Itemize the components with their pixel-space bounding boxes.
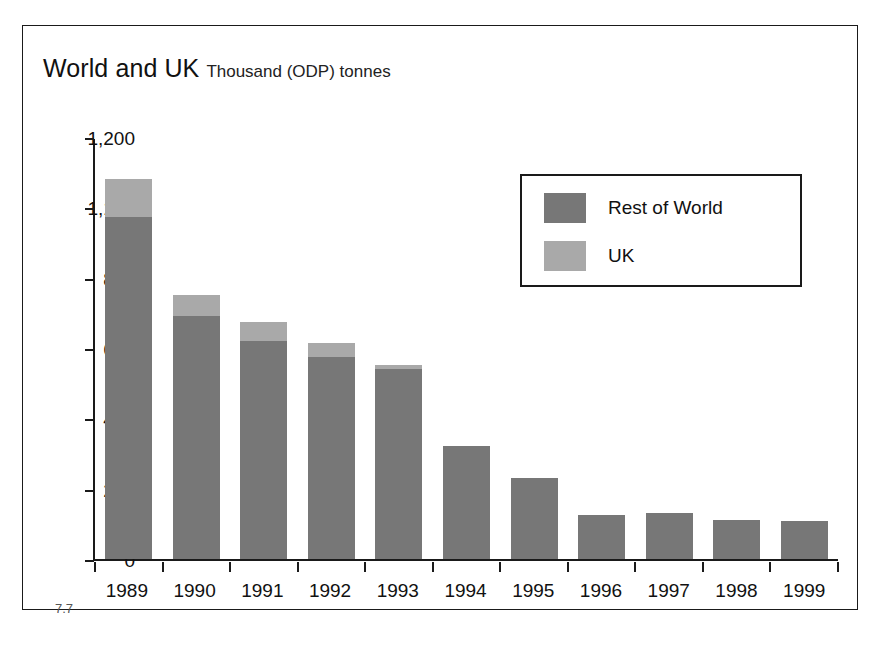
x-axis-ticks [93, 562, 838, 572]
x-axis-tick [162, 562, 164, 572]
legend-label-uk: UK [608, 245, 634, 267]
bar-1996 [578, 515, 625, 559]
bar-segment-rest-of-world [375, 369, 422, 559]
bar-1994 [443, 446, 490, 559]
x-axis-labels: 1989199019911992199319941995199619971998… [93, 580, 838, 602]
bar-group [95, 116, 163, 559]
x-axis-label-1996: 1996 [567, 580, 635, 602]
bar-group [298, 116, 366, 559]
x-axis-label-1990: 1990 [161, 580, 229, 602]
title-main: World and UK [43, 54, 199, 82]
x-axis-label-1993: 1993 [364, 580, 432, 602]
bar-segment-uk [105, 179, 152, 217]
x-axis-label-1997: 1997 [635, 580, 703, 602]
y-axis-tick [85, 279, 94, 281]
bar-group [230, 116, 298, 559]
y-axis-tick [85, 490, 94, 492]
x-axis-label-1992: 1992 [296, 580, 364, 602]
x-axis-label-1998: 1998 [703, 580, 771, 602]
x-axis-tick [769, 562, 771, 572]
legend-item-uk: UK [544, 241, 800, 271]
bar-segment-rest-of-world [713, 520, 760, 559]
bar-1992 [308, 343, 355, 559]
bar-segment-rest-of-world [105, 217, 152, 559]
bar-1989 [105, 179, 152, 559]
title-subtitle: Thousand (ODP) tonnes [206, 62, 390, 81]
y-axis-tick [85, 208, 94, 210]
bar-group [365, 116, 433, 559]
x-axis-tick [567, 562, 569, 572]
x-axis-label-1989: 1989 [93, 580, 161, 602]
bar-segment-rest-of-world [308, 357, 355, 559]
bar-segment-rest-of-world [443, 446, 490, 559]
x-axis-tick [364, 562, 366, 572]
bar-segment-rest-of-world [781, 521, 828, 559]
bar-1997 [646, 513, 693, 559]
bar-1990 [173, 295, 220, 559]
legend-item-rest-of-world: Rest of World [544, 193, 800, 223]
figure-frame: World and UKThousand (ODP) tonnes 1,2001… [22, 25, 858, 610]
y-axis-tick [85, 138, 94, 140]
x-axis-tick [432, 562, 434, 572]
bar-segment-uk [173, 295, 220, 316]
bar-group [433, 116, 501, 559]
x-axis-label-1991: 1991 [228, 580, 296, 602]
bar-segment-uk [240, 322, 287, 341]
bar-segment-rest-of-world [240, 341, 287, 559]
x-axis-tick [94, 562, 96, 572]
y-axis-tick [85, 349, 94, 351]
bar-segment-uk [308, 343, 355, 357]
x-axis-label-1994: 1994 [432, 580, 500, 602]
x-axis-label-1999: 1999 [770, 580, 838, 602]
bar-segment-rest-of-world [646, 513, 693, 559]
y-axis-tick [85, 419, 94, 421]
bar-group [163, 116, 231, 559]
legend-label-rest-of-world: Rest of World [608, 197, 723, 219]
x-axis-label-1995: 1995 [499, 580, 567, 602]
bar-1993 [375, 365, 422, 559]
bar-1999 [781, 521, 828, 559]
x-axis-tick [634, 562, 636, 572]
x-axis-tick [229, 562, 231, 572]
legend-swatch-rest-of-world [544, 193, 586, 223]
bar-1991 [240, 322, 287, 559]
x-axis-tick [837, 562, 839, 572]
x-axis-tick [702, 562, 704, 572]
legend-swatch-uk [544, 241, 586, 271]
bar-segment-rest-of-world [578, 515, 625, 559]
x-axis-tick [499, 562, 501, 572]
bar-1995 [511, 478, 558, 559]
bar-1998 [713, 520, 760, 559]
x-axis-tick [297, 562, 299, 572]
bar-segment-rest-of-world [511, 478, 558, 559]
chart-legend: Rest of World UK [520, 174, 802, 287]
figure-number: 7.7 [55, 601, 73, 616]
bar-segment-rest-of-world [173, 316, 220, 559]
chart-title: World and UKThousand (ODP) tonnes [43, 54, 391, 83]
chart-page: World and UKThousand (ODP) tonnes 1,2001… [0, 0, 880, 650]
